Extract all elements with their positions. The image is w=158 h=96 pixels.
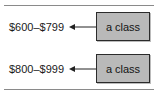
top-divider-rule: [4, 5, 154, 6]
table-row: $600–$799 a class: [0, 12, 158, 42]
class-box-label: a class: [97, 55, 149, 82]
class-box: a class: [96, 12, 150, 41]
class-box: a class: [96, 54, 150, 83]
figure-container: $600–$799 a class $800–$999 a class: [0, 0, 158, 96]
table-row: $800–$999 a class: [0, 54, 158, 84]
class-box-label: a class: [97, 13, 149, 40]
price-range-label: $600–$799: [9, 12, 64, 42]
left-arrow-icon: [69, 12, 97, 42]
bottom-divider-rule: [4, 89, 154, 90]
price-range-label: $800–$999: [9, 54, 64, 84]
left-arrow-icon: [69, 54, 97, 84]
